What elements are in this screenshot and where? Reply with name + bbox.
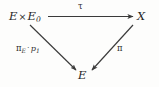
arrow-label-pi-e-dot-p1: πE·p1	[16, 44, 40, 54]
node-e-times-e0-subscript: 0	[36, 15, 41, 24]
times-operator-icon: ×	[18, 11, 28, 22]
node-x: X	[137, 11, 145, 23]
arrow-label-pi: π	[117, 44, 123, 52]
arrow-label-tau: τ	[78, 2, 83, 10]
p-subscript-1: 1	[36, 47, 40, 54]
node-e-times-e0: E×E0	[9, 11, 41, 24]
commutative-diagram: E×E0 X E τ πE·p1 π	[0, 0, 159, 87]
tau-glyph: τ	[78, 1, 83, 11]
pi-glyph-right: π	[117, 43, 123, 53]
node-e: E	[78, 70, 87, 82]
node-e-times-e0-second: E	[28, 9, 37, 23]
arrow-right-diagonal	[92, 25, 133, 70]
node-e-times-e0-base: E	[9, 9, 18, 23]
